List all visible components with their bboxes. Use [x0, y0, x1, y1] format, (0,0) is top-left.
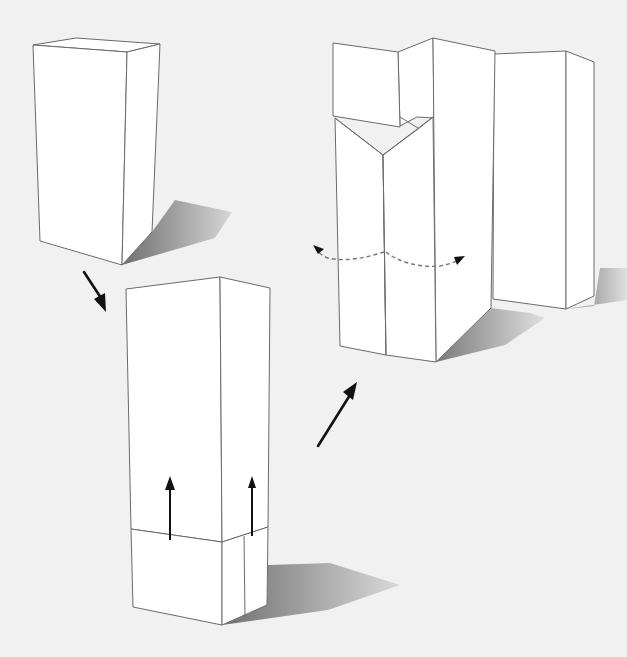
box2-lower-front-face	[131, 529, 222, 625]
folding-diagram	[0, 0, 627, 657]
box3-inner-back-flap	[398, 38, 434, 126]
box2-upper-front-face	[126, 277, 222, 542]
step-1-closed-box	[33, 38, 232, 265]
arrow-step2-to-step3	[318, 382, 357, 446]
arrowhead-down-right-icon	[94, 293, 106, 312]
arrowhead-up-right-icon	[343, 382, 357, 400]
box3-right-flap	[433, 38, 495, 362]
arrow-step1-to-step2	[84, 272, 106, 312]
box2-upper-side-face	[220, 277, 270, 542]
box3-back-side-face	[566, 51, 594, 309]
box3-front-left-panel	[335, 118, 386, 355]
box3-back-front-face	[493, 51, 566, 309]
box1-front-face	[33, 45, 127, 265]
box3-left-flap	[333, 43, 400, 127]
arrowhead-curved-left-icon	[313, 245, 324, 254]
box3-front-center-panel	[383, 117, 436, 362]
step-3-opened-box	[333, 38, 627, 362]
